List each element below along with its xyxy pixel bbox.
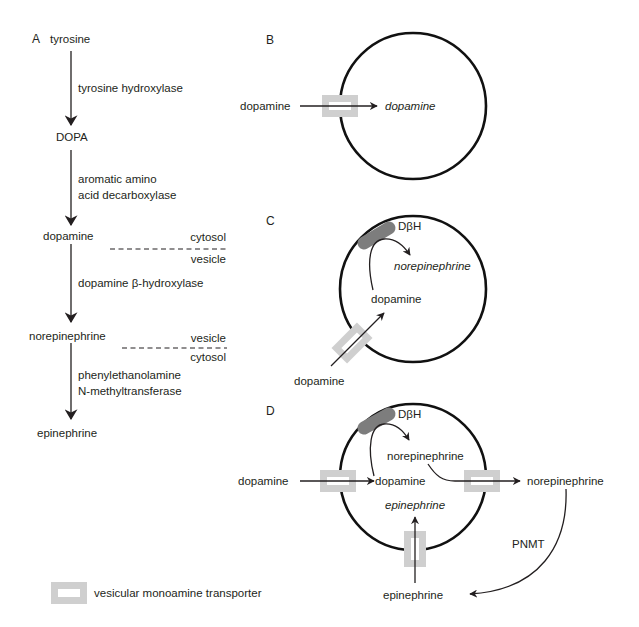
dopamine-outside-d: dopamine [238,475,289,487]
enzyme-aadc-line2: acid decarboxylase [78,189,176,201]
arrow-dopamine-uptake-c [331,313,384,366]
enzyme-aadc-line1: aromatic amino [78,173,157,185]
dbh-label-d: DβH [398,408,421,420]
enzyme-pnmt-line1: phenylethanolamine [78,369,181,381]
compound-epinephrine: epinephrine [37,427,97,439]
compartment-cytosol-1: cytosol [190,231,226,243]
panel-b: B dopamine dopamine [240,33,486,179]
enzyme-pnmt-line2: N-methyltransferase [78,385,182,397]
dopamine-inside-c: dopamine [371,293,422,305]
compartment-vesicle-2: vesicle [191,332,226,344]
panel-label-a: A [32,32,40,46]
epinephrine-outside-d: epinephrine [383,589,443,601]
legend: vesicular monoamine transporter [51,582,262,604]
compartment-vesicle-1: vesicle [191,253,226,265]
compound-dopa: DOPA [56,131,88,143]
dbh-enzyme-d [364,414,389,428]
enzyme-dbh: dopamine β-hydroxylase [78,277,204,289]
dopamine-outside-b: dopamine [240,100,291,112]
panel-label-c: C [266,214,275,228]
enzyme-tyrosine-hydroxylase: tyrosine hydroxylase [78,82,183,94]
compound-tyrosine: tyrosine [50,33,90,45]
legend-vmat-icon [51,582,87,604]
norepinephrine-outside-d: norepinephrine [527,475,604,487]
panel-label-b: B [266,33,274,47]
catecholamine-synthesis-figure: A tyrosine tyrosine hydroxylase DOPA aro… [0,0,639,627]
panel-label-d: D [266,404,275,418]
panel-a: A tyrosine tyrosine hydroxylase DOPA aro… [29,32,229,439]
dopamine-inside-d: dopamine [375,475,426,487]
vmat-transporter-c [331,322,372,363]
legend-vmat-label: vesicular monoamine transporter [94,587,262,599]
dbh-label-c: DβH [398,220,421,232]
compound-norepinephrine: norepinephrine [29,330,106,342]
panel-c: C DβH norepinephrine dopamine dopamine [266,214,486,387]
compartment-cytosol-2: cytosol [190,351,226,363]
norepinephrine-inside-d: norepinephrine [387,450,464,462]
norepinephrine-inside-c: norepinephrine [394,260,471,272]
dopamine-inside-b: dopamine [385,100,436,112]
epinephrine-inside-d: epinephrine [385,499,445,511]
pnmt-label: PNMT [512,538,545,550]
compound-dopamine: dopamine [43,230,94,242]
panel-d: D DβH norepinephrine dopamine dopamine e… [238,404,604,601]
dopamine-outside-c: dopamine [294,375,345,387]
